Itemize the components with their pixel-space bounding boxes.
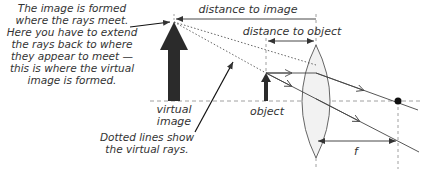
ray-center-arrow [266,73,290,85]
object-label: object [250,105,285,118]
virtual-image-arrow [160,22,188,101]
svg-text:they appear to meet —: they appear to meet — [11,50,134,62]
virtual-image-label-line2: image [157,115,191,128]
lens-diagram: distance to image distance to object f o… [0,0,427,169]
focal-length-label: f [354,145,360,158]
dotted-note-pointer [195,62,233,132]
image-note-pointer [130,22,170,27]
distance-to-object-label: distance to object [243,25,342,38]
svg-text:the virtual rays.: the virtual rays. [105,143,188,155]
svg-text:image is formed.: image is formed. [28,74,117,86]
distance-to-image-label: distance to image [199,3,298,16]
svg-text:Here you have to extend: Here you have to extend [7,26,138,38]
image-formed-note: The image is formed where the rays meet.… [7,2,138,86]
dotted-lines-note: Dotted lines show the virtual rays. [100,131,195,155]
svg-text:the rays back to where: the rays back to where [12,38,133,50]
svg-text:Dotted lines show: Dotted lines show [100,131,195,143]
object-arrow [261,73,271,101]
focal-point [395,98,402,105]
svg-text:this is where the virtual: this is where the virtual [10,62,134,74]
svg-text:where the rays meet.: where the rays meet. [16,14,129,26]
svg-text:The image is formed: The image is formed [18,2,127,14]
